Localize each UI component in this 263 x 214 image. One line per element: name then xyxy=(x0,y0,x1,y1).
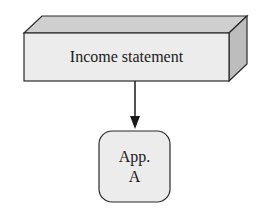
income-statement-node: Income statement xyxy=(24,33,229,81)
appendix-a-node: App. A xyxy=(99,131,170,202)
income-statement-label: Income statement xyxy=(70,48,183,66)
appendix-a-label-line1: App. xyxy=(119,147,151,167)
appendix-a-label-line2: A xyxy=(129,167,141,187)
arrowhead-down-icon xyxy=(130,116,140,129)
box-top-face xyxy=(24,16,247,33)
